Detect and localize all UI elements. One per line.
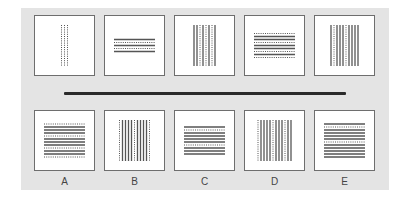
sequence-figure-2 <box>104 15 165 76</box>
option-figure-b[interactable] <box>104 110 165 171</box>
option-label-d: D <box>244 176 305 187</box>
sequence-figure-1 <box>34 15 95 76</box>
option-label-e: E <box>314 176 375 187</box>
sequence-figure-4 <box>244 15 305 76</box>
sequence-figure-5 <box>314 15 375 76</box>
separator-line <box>64 92 346 95</box>
sequence-figure-3 <box>174 15 235 76</box>
option-label-c: C <box>174 176 235 187</box>
option-label-b: B <box>104 176 165 187</box>
option-figure-c[interactable] <box>174 110 235 171</box>
option-label-a: A <box>34 176 95 187</box>
option-figure-a[interactable] <box>34 110 95 171</box>
option-figure-e[interactable] <box>314 110 375 171</box>
option-figure-d[interactable] <box>244 110 305 171</box>
